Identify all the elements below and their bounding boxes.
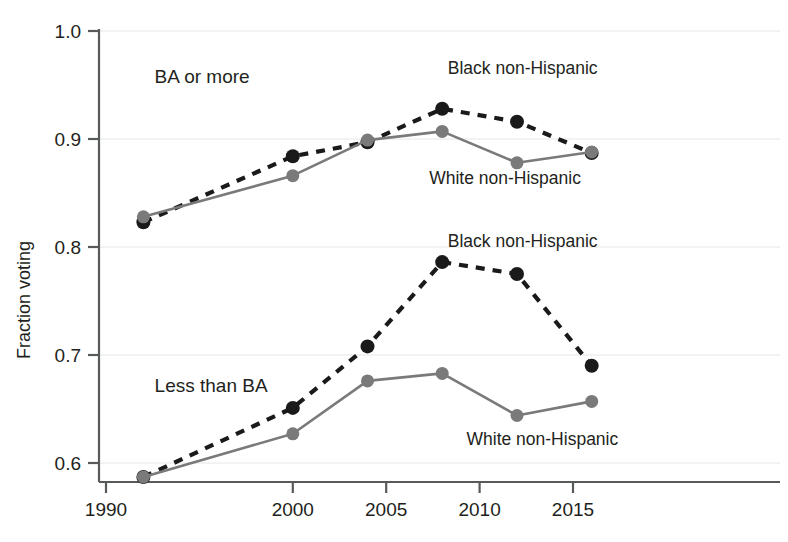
data-point [435, 255, 449, 269]
x-tick-label-2010: 2010 [458, 499, 500, 520]
y-axis-title: Fraction voting [14, 241, 34, 359]
y-tick-label-0.6: 0.6 [55, 453, 81, 474]
data-point [585, 359, 599, 373]
data-point [137, 210, 150, 223]
data-point [137, 471, 150, 484]
data-point [286, 169, 299, 182]
data-point [435, 102, 449, 116]
data-point [510, 115, 524, 129]
x-tick-label-2015: 2015 [552, 499, 594, 520]
data-point [436, 125, 449, 138]
x-tick-label-1990: 1990 [85, 499, 127, 520]
data-point [286, 427, 299, 440]
annotation-group-upper: BA or more [155, 66, 250, 87]
data-point [511, 409, 524, 422]
annotation-lower-white: White non-Hispanic [467, 429, 619, 449]
y-tick-label-1.0: 1.0 [55, 21, 81, 42]
y-tick-label-0.8: 0.8 [55, 237, 81, 258]
data-point [361, 339, 375, 353]
data-point [511, 156, 524, 169]
annotation-upper-black: Black non-Hispanic [448, 58, 598, 78]
chart-figure: 0.60.70.80.91.0 19902000200520102015 BA … [0, 0, 788, 542]
line-chart: 0.60.70.80.91.0 19902000200520102015 BA … [0, 0, 788, 542]
data-point [361, 374, 374, 387]
x-tick-label-2000: 2000 [272, 499, 314, 520]
data-point [585, 395, 598, 408]
annotation-group-lower: Less than BA [155, 375, 268, 396]
chart-background [0, 0, 788, 542]
annotation-lower-black: Black non-Hispanic [448, 231, 598, 251]
annotation-upper-white: White non-Hispanic [429, 168, 581, 188]
data-point [286, 149, 300, 163]
data-point [585, 146, 598, 159]
y-tick-label-0.7: 0.7 [55, 345, 81, 366]
data-point [286, 401, 300, 415]
x-tick-label-2005: 2005 [365, 499, 407, 520]
data-point [436, 367, 449, 380]
data-point [510, 267, 524, 281]
data-point [361, 134, 374, 147]
y-tick-label-0.9: 0.9 [55, 129, 81, 150]
